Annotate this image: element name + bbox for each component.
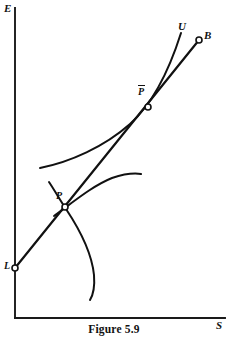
point-label-P-bar-text: P bbox=[138, 87, 144, 97]
utility-curve-label: U bbox=[178, 21, 186, 32]
point-label-B: B bbox=[204, 30, 211, 41]
figure-drawing-canvas bbox=[0, 0, 228, 345]
point-marker-P-bar bbox=[145, 104, 151, 110]
figure-5-9-container: E S U B P P L Figure 5.9 bbox=[0, 0, 228, 345]
y-axis-label: E bbox=[4, 3, 11, 14]
point-marker-B bbox=[196, 37, 202, 43]
point-label-P-bar: P bbox=[138, 87, 144, 97]
point-marker-L bbox=[12, 265, 18, 271]
figure-caption: Figure 5.9 bbox=[0, 323, 228, 335]
utility-indifference-curve bbox=[40, 33, 181, 168]
budget-line-L-to-B bbox=[15, 40, 199, 268]
point-label-L: L bbox=[4, 261, 10, 271]
point-marker-P bbox=[62, 204, 68, 210]
point-label-P: P bbox=[56, 191, 62, 201]
